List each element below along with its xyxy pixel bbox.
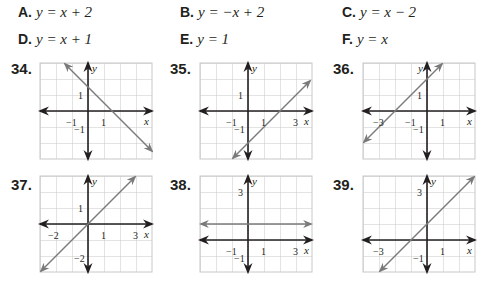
y-tick-neg1: −1 (234, 124, 245, 135)
choice-letter: C. (342, 4, 356, 20)
choice-d: D.y = x + 1 (18, 31, 92, 48)
choice-letter: A. (18, 4, 32, 20)
x-axis-label: x (143, 228, 149, 240)
graph-34: −1 1 x y 1 −1 (38, 61, 154, 161)
graph-39: −3 1 x y 3 −1 (361, 174, 477, 274)
y-tick-1: 1 (238, 90, 243, 101)
x-axis-label: x (466, 244, 472, 256)
choice-equation: y = x − 2 (360, 4, 416, 20)
x-tick-neg2: −2 (48, 230, 59, 241)
choice-letter: D. (18, 31, 32, 47)
problem-number-37: 37. (11, 176, 32, 193)
x-tick-1: 1 (261, 246, 266, 257)
choice-letter: B. (180, 4, 194, 20)
y-axis-label: y (430, 175, 436, 187)
problem-number-39: 39. (333, 176, 354, 193)
choice-equation: y = 1 (197, 31, 229, 47)
choice-equation: y = x + 1 (36, 31, 92, 47)
choice-letter: E. (180, 31, 193, 47)
x-tick-1: 1 (101, 117, 106, 128)
choice-f: F.y = x (342, 31, 388, 48)
y-axis-label: y (251, 175, 257, 187)
y-tick-3: 3 (238, 187, 243, 198)
x-axis-label: x (466, 115, 472, 127)
problem-number-34: 34. (11, 60, 32, 77)
x-tick-neg3: −3 (373, 117, 384, 128)
x-tick-1: 1 (440, 246, 445, 257)
x-tick-1: 1 (261, 117, 266, 128)
problem-number-35: 35. (170, 60, 191, 77)
y-tick-neg1: −1 (234, 253, 245, 264)
choice-equation: y = x + 2 (36, 4, 92, 20)
y-tick-neg1: −1 (413, 253, 424, 264)
choice-e: E.y = 1 (180, 31, 229, 48)
y-tick-3: 3 (417, 187, 422, 198)
x-tick-3: 3 (293, 246, 298, 257)
y-tick-neg1: −1 (74, 124, 85, 135)
choice-letter: F. (342, 31, 353, 47)
choice-b: B.y = −x + 2 (180, 4, 264, 21)
x-axis-label: x (303, 244, 309, 256)
choice-equation: y = x (357, 31, 388, 47)
x-tick-1: 1 (440, 117, 445, 128)
choice-c: C.y = x − 2 (342, 4, 416, 21)
y-tick-1: 1 (78, 90, 83, 101)
problem-number-38: 38. (170, 176, 191, 193)
graph-36: −3 −1 1 x y 1 −1 (361, 61, 477, 161)
x-tick-3: 3 (133, 230, 138, 241)
graph-37: −2 1 3 x y 1 −2 (38, 174, 154, 274)
graph-35: −1 1 3 x y 1 −1 (198, 61, 314, 161)
y-axis-label: y (91, 175, 97, 187)
choice-a: A.y = x + 2 (18, 4, 92, 21)
y-axis-label: y (251, 62, 257, 74)
y-tick-neg2: −2 (74, 253, 85, 264)
x-tick-1: 1 (101, 230, 106, 241)
graph-38: −1 1 3 x y 3 −1 (198, 174, 314, 274)
y-tick-1: 1 (417, 90, 422, 101)
y-tick-1: 1 (78, 203, 83, 214)
problem-number-36: 36. (333, 60, 354, 77)
y-tick-neg1: −1 (413, 124, 424, 135)
choice-equation: y = −x + 2 (198, 4, 264, 20)
y-axis-label: y (91, 62, 97, 74)
x-axis-label: x (143, 115, 149, 127)
x-tick-neg3: −3 (373, 246, 384, 257)
x-axis-label: x (303, 115, 309, 127)
y-axis-label: y (417, 62, 423, 74)
x-tick-3: 3 (293, 117, 298, 128)
